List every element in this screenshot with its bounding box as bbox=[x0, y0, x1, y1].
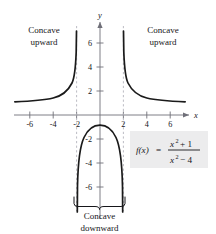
annotation-line-2: downward bbox=[81, 223, 119, 233]
x-tick-label: 6 bbox=[168, 120, 172, 129]
x-tick-label: 4 bbox=[145, 120, 149, 129]
x-tick-label: -6 bbox=[26, 120, 33, 129]
y-tick-label: 4 bbox=[88, 63, 92, 72]
formula-numerator: x 2 + 1 bbox=[169, 137, 192, 149]
concave-downward-brace bbox=[74, 197, 125, 210]
formula-equals: = bbox=[156, 145, 161, 155]
y-tick-label: -6 bbox=[85, 183, 92, 192]
numerator-exponent: 2 bbox=[176, 137, 179, 144]
y-axis-label: y bbox=[97, 10, 102, 20]
x-tick-label: -4 bbox=[50, 120, 57, 129]
annotation-line-1: Concave bbox=[28, 25, 60, 35]
x-tick-label: -2 bbox=[73, 120, 80, 129]
annotation-line-2: upward bbox=[31, 37, 58, 47]
concavity-figure: -6 -4 -2 2 4 6 6 4 2 -2 -4 -6 x y bbox=[0, 0, 216, 234]
annotation-concave-upward-right: Concave upward bbox=[147, 25, 179, 47]
formula-denominator: x 2 − 4 bbox=[169, 153, 192, 165]
y-tick-label: -4 bbox=[85, 159, 92, 168]
annotation-line-2: upward bbox=[150, 37, 177, 47]
y-axis-arrow-icon bbox=[97, 22, 102, 28]
formula-fx: f(x) bbox=[136, 145, 149, 155]
annotation-line-1: Concave bbox=[147, 25, 179, 35]
denominator-rest: − 4 bbox=[180, 155, 192, 165]
denominator-exponent: 2 bbox=[176, 153, 179, 160]
x-axis-label: x bbox=[193, 110, 198, 120]
annotation-concave-upward-left: Concave upward bbox=[28, 25, 60, 47]
y-tick-label: -2 bbox=[85, 135, 92, 144]
y-tick-label: 2 bbox=[88, 87, 92, 96]
graph-svg: -6 -4 -2 2 4 6 6 4 2 -2 -4 -6 x y bbox=[0, 0, 216, 234]
axis-group bbox=[14, 22, 189, 219]
numerator-rest: + 1 bbox=[180, 139, 192, 149]
annotation-concave-downward: Concave downward bbox=[81, 211, 119, 233]
y-tick-labels: 6 4 2 -2 -4 -6 bbox=[85, 39, 92, 192]
brace-path bbox=[74, 197, 125, 210]
annotation-line-1: Concave bbox=[84, 211, 116, 221]
x-axis-arrow-icon bbox=[183, 112, 189, 117]
formula-box: f(x) = x 2 + 1 x 2 − 4 bbox=[130, 131, 208, 168]
x-tick-label: 2 bbox=[121, 120, 125, 129]
y-tick-label: 6 bbox=[88, 39, 92, 48]
